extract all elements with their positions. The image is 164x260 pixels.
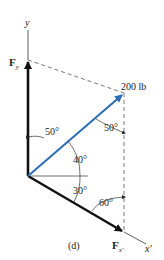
caption: (d) (68, 240, 80, 252)
x-prime-axis (124, 232, 146, 244)
fx-label: Fx' (112, 239, 124, 254)
y-axis-label: y (24, 17, 30, 28)
angle-label-60: 60° (99, 197, 113, 208)
dashed-line-top (28, 60, 124, 93)
angle-arc-50-top (28, 136, 44, 138)
angle-label-30: 30° (73, 185, 87, 196)
angle-label-50-top: 50° (45, 126, 59, 137)
x-prime-label: x' (144, 243, 152, 254)
angle-label-40: 40° (73, 154, 87, 165)
angle-label-50-right: 50° (104, 122, 118, 133)
fy-label: Fy (9, 56, 20, 71)
force-diagram: y Fy 200 lb 50° 50° 40° 30° 60° (d) Fx' … (0, 0, 164, 260)
applied-force-label: 200 lb (121, 81, 146, 92)
